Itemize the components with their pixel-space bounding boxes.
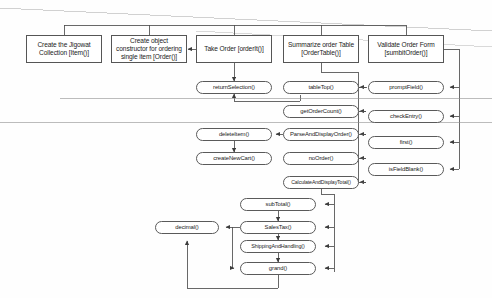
routine-first[interactable]: first() (368, 136, 444, 149)
routine-calculate-and-display-total[interactable]: CalculateAndDisplayTotal() (283, 176, 359, 189)
routine-sales-tax[interactable]: SalesTax() (240, 221, 316, 234)
routine-label: ShippingAndHandling() (244, 243, 312, 250)
module-label: Create object constructor for ordering s… (114, 37, 184, 61)
routine-label: promptField() (372, 84, 440, 91)
structure-chart-canvas: Create the Jigowat Collection [Item()] C… (0, 0, 492, 298)
routine-label: first() (372, 139, 440, 146)
routine-label: grand() (244, 265, 312, 272)
routine-return-selection[interactable]: returnSelection() (196, 81, 272, 94)
module-label: Create the Jigowat Collection [Item()] (29, 41, 99, 57)
routine-create-new-cart[interactable]: createNewCart() (196, 152, 272, 165)
module-create-collection[interactable]: Create the Jigowat Collection [Item()] (26, 35, 102, 63)
module-validate-order-form[interactable]: Validate Order Form [sumbitOrder()] (368, 35, 444, 63)
routine-label: deleteItem() (200, 131, 268, 138)
routine-parse-and-display-order[interactable]: ParseAndDisplayOrder() (283, 128, 359, 141)
routine-shipping-and-handling[interactable]: ShippingAndHandling() (240, 240, 316, 253)
routine-label: SalesTax() (244, 224, 312, 231)
routine-label: subTotal() (244, 201, 312, 208)
routine-label: getOrderCount() (287, 108, 355, 115)
routine-no-order[interactable]: noOrder() (283, 152, 359, 165)
routine-grand[interactable]: grand() (240, 262, 316, 275)
routine-label: returnSelection() (200, 84, 268, 91)
routine-table-top[interactable]: tableTop() (283, 81, 359, 94)
routine-label: noOrder() (287, 155, 355, 162)
routine-get-order-count[interactable]: getOrderCount() (283, 105, 359, 118)
routine-check-entry[interactable]: checkEntry() (368, 110, 444, 123)
routine-label: ParseAndDisplayOrder() (287, 131, 355, 138)
routine-label: decimal() (159, 224, 215, 231)
routine-label: isFieldBlank() (372, 166, 440, 173)
module-label: Take Order [orderIt()] (199, 45, 269, 53)
module-label: Summarize order Table [OrderTable()] (286, 41, 356, 57)
module-label: Validate Order Form [sumbitOrder()] (371, 41, 441, 57)
routine-label: checkEntry() (372, 113, 440, 120)
routine-label: createNewCart() (200, 155, 268, 162)
routine-is-field-blank[interactable]: isFieldBlank() (368, 163, 444, 176)
module-create-constructor[interactable]: Create object constructor for ordering s… (111, 35, 187, 63)
routine-prompt-field[interactable]: promptField() (368, 81, 444, 94)
module-summarize-order-table[interactable]: Summarize order Table [OrderTable()] (283, 35, 359, 63)
module-take-order[interactable]: Take Order [orderIt()] (196, 35, 272, 63)
routine-decimal[interactable]: decimal() (155, 221, 219, 234)
routine-sub-total[interactable]: subTotal() (240, 198, 316, 211)
routine-label: CalculateAndDisplayTotal() (287, 179, 355, 185)
routine-delete-item[interactable]: deleteItem() (196, 128, 272, 141)
routine-label: tableTop() (287, 84, 355, 91)
